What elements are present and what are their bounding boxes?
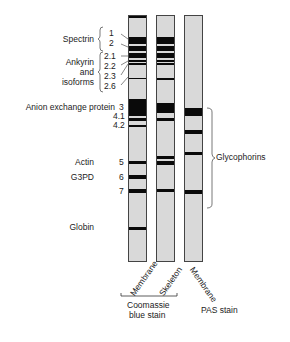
band (129, 125, 146, 127)
label-glycophorins: Glycophorins (216, 152, 266, 162)
band (185, 152, 202, 155)
band-num-2-3: 2.3 (104, 71, 116, 81)
band (129, 63, 146, 65)
label-g3pd: G3PD (71, 172, 94, 182)
band (157, 118, 174, 121)
band (129, 227, 146, 230)
label-spectrin: Spectrin (63, 34, 94, 44)
band (129, 37, 146, 44)
band-num-2-1: 2.1 (104, 51, 116, 61)
stain-coomassie-1: Coomassie (127, 300, 170, 310)
band (157, 60, 174, 62)
label-globin: Globin (69, 222, 94, 232)
lane-membrane-pas (184, 15, 203, 262)
label-ankyrin-1: Ankyrin (66, 57, 94, 67)
band-num-5: 5 (119, 157, 124, 167)
band (157, 37, 174, 44)
band (129, 118, 146, 121)
band-num-6: 6 (119, 172, 124, 182)
band (185, 190, 202, 194)
band (157, 161, 174, 165)
label-anion-exchange: Anion exchange protein (26, 102, 115, 112)
band (129, 161, 146, 164)
band (157, 46, 174, 51)
band (157, 53, 174, 58)
band (129, 46, 146, 51)
label-ankyrin-2: and (80, 67, 94, 77)
band (157, 63, 174, 65)
band (129, 78, 146, 79)
band (157, 78, 174, 80)
band (157, 156, 174, 159)
label-actin: Actin (75, 157, 94, 167)
band-num-1: 1 (109, 28, 114, 38)
band (129, 16, 146, 18)
band (129, 189, 146, 193)
band (185, 130, 202, 134)
band-num-2: 2 (109, 38, 114, 48)
band-num-4-2: 4.2 (113, 120, 125, 130)
stain-pas: PAS stain (201, 305, 238, 315)
band-num-2-6: 2.6 (104, 81, 116, 91)
lane-membrane-coomassie (128, 15, 147, 262)
label-ankyrin-3: isoforms (62, 77, 94, 87)
band-num-7: 7 (119, 186, 124, 196)
band (185, 108, 202, 116)
band (157, 103, 174, 113)
band (157, 189, 174, 192)
band (129, 53, 146, 58)
lane-skeleton-coomassie (156, 15, 175, 262)
stain-coomassie-2: blue stain (129, 310, 165, 320)
band (129, 175, 146, 179)
band (129, 99, 146, 116)
band (129, 60, 146, 62)
band-num-2-2: 2.2 (104, 61, 116, 71)
